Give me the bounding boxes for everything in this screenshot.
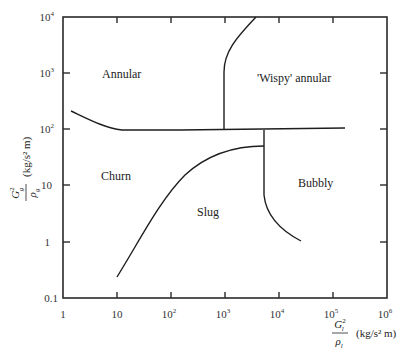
svg-text:10: 10 [41, 179, 53, 191]
slug-bubbly-boundary [264, 130, 301, 241]
region-label-wispy-annular: 'Wispy' annular [257, 71, 331, 85]
svg-text:106: 106 [378, 307, 393, 320]
svg-text:ρg: ρg [26, 188, 41, 198]
x-axis-ticks [117, 17, 333, 298]
y-tick-labels: 104 103 102 10 1 0.1 [40, 10, 59, 304]
annular-churn-boundary [71, 111, 345, 130]
region-label-churn: Churn [101, 169, 131, 183]
churn-slug-boundary [117, 146, 264, 277]
svg-text:G2l: G2l [334, 317, 346, 333]
annular-wispy-boundary [224, 17, 256, 130]
svg-text:104: 104 [270, 307, 285, 320]
y-axis-label: G2g ρg (kg/s² m) [8, 136, 41, 201]
svg-text:0.1: 0.1 [44, 292, 58, 304]
svg-text:1: 1 [60, 308, 66, 320]
svg-text:103: 103 [216, 307, 231, 320]
x-axis-label: G2l ρl (kg/s² m) [332, 317, 397, 350]
svg-text:104: 104 [40, 10, 55, 23]
svg-text:102: 102 [162, 307, 177, 320]
svg-text:(kg/s² m): (kg/s² m) [356, 327, 397, 340]
y-axis-ticks [63, 73, 387, 242]
region-label-annular: Annular [102, 67, 141, 81]
svg-text:102: 102 [40, 122, 55, 135]
flow-regime-map: 1 10 102 103 104 105 106 104 103 102 10 … [0, 0, 406, 357]
svg-text:1: 1 [45, 236, 51, 248]
svg-text:G2g: G2g [8, 187, 25, 199]
svg-text:103: 103 [40, 66, 55, 79]
region-label-slug: Slug [197, 205, 219, 219]
region-label-bubbly: Bubbly [298, 176, 333, 190]
svg-text:ρl: ρl [334, 335, 342, 350]
svg-text:10: 10 [112, 308, 124, 320]
plot-frame [63, 17, 387, 298]
svg-text:(kg/s² m): (kg/s² m) [20, 136, 33, 177]
